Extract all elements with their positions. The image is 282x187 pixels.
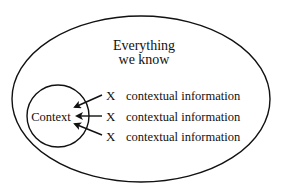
- arrow-3: [75, 124, 102, 135]
- contextual-info-3: contextual information: [126, 130, 241, 144]
- context-diagram: Everything we know Context X X X context…: [0, 0, 282, 187]
- marker-x-3: X: [106, 129, 116, 144]
- marker-x-1: X: [106, 88, 116, 103]
- contextual-info-1: contextual information: [126, 89, 241, 103]
- contextual-info-2: contextual information: [126, 110, 241, 124]
- marker-x-2: X: [106, 109, 116, 124]
- outer-label-line1: Everything: [113, 38, 175, 53]
- context-label: Context: [31, 110, 71, 124]
- outer-label-line2: we know: [119, 52, 171, 67]
- arrow-1: [75, 95, 102, 107]
